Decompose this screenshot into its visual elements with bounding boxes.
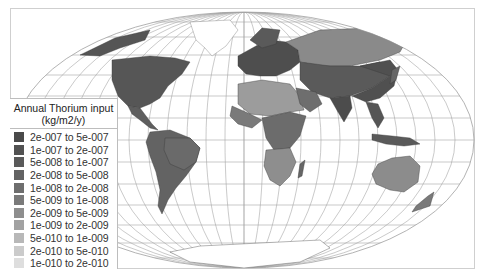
legend-item: 2e-007 to 5e-007 [14, 131, 114, 144]
legend-item: 1e-008 to 2e-008 [14, 181, 114, 194]
legend-item: 5e-008 to 1e-007 [14, 156, 114, 169]
legend-swatch [14, 145, 24, 155]
legend-label: 2e-009 to 5e-009 [30, 207, 108, 219]
legend: 2e-007 to 5e-007 1e-007 to 2e-007 5e-008… [10, 128, 118, 269]
legend-swatch [14, 258, 24, 268]
legend-swatch [14, 132, 24, 142]
legend-label: 2e-007 to 5e-007 [30, 131, 108, 143]
legend-swatch [14, 170, 24, 180]
legend-item: 1e-009 to 2e-009 [14, 219, 114, 232]
legend-item: 2e-008 to 5e-008 [14, 169, 114, 182]
legend-item: 2e-009 to 5e-009 [14, 207, 114, 220]
legend-label: 2e-010 to 5e-010 [30, 245, 108, 257]
legend-swatch [14, 208, 24, 218]
legend-label: 1e-010 to 2e-010 [30, 257, 108, 269]
legend-swatch [14, 157, 24, 167]
legend-item: 5e-010 to 1e-009 [14, 232, 114, 245]
legend-item: 2e-010 to 5e-010 [14, 244, 114, 257]
legend-label: 1e-009 to 2e-009 [30, 219, 108, 231]
legend-label: 5e-009 to 1e-008 [30, 194, 108, 206]
legend-swatch [14, 233, 24, 243]
legend-label: 5e-010 to 1e-009 [30, 232, 108, 244]
legend-header: Annual Thorium input (kg/m2/y) [10, 98, 118, 128]
legend-item: 1e-007 to 2e-007 [14, 144, 114, 157]
legend-label: 2e-008 to 5e-008 [30, 169, 108, 181]
legend-item: 1e-010 to 2e-010 [14, 257, 114, 270]
legend-swatch [14, 195, 24, 205]
legend-label: 1e-008 to 2e-008 [30, 182, 108, 194]
legend-swatch [14, 220, 24, 230]
legend-label: 1e-007 to 2e-007 [30, 144, 108, 156]
legend-label: 5e-008 to 1e-007 [30, 156, 108, 168]
legend-swatch [14, 246, 24, 256]
legend-item: 5e-009 to 1e-008 [14, 194, 114, 207]
legend-swatch [14, 183, 24, 193]
legend-title: Annual Thorium input [10, 102, 117, 114]
legend-units: (kg/m2/y) [10, 114, 117, 126]
legend-items: 2e-007 to 5e-007 1e-007 to 2e-007 5e-008… [14, 131, 114, 270]
